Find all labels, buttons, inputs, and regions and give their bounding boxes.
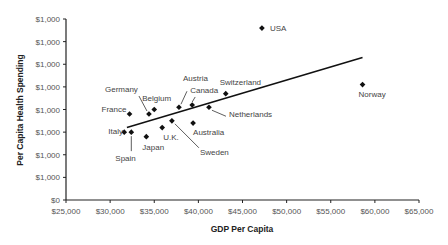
y-tick-label: $1,000	[36, 128, 61, 137]
data-point	[151, 107, 157, 113]
point-label: USA	[270, 24, 287, 33]
x-tick-label: $35,000	[140, 207, 169, 216]
data-point	[127, 111, 133, 117]
x-tick-label: $45,000	[228, 207, 257, 216]
data-point	[206, 104, 212, 110]
point-label: Switzerland	[220, 78, 261, 87]
y-tick-label: $1,000	[36, 38, 61, 47]
y-tick-label: $1,000	[36, 83, 61, 92]
data-point	[159, 125, 165, 131]
point-label: Spain	[115, 154, 135, 163]
y-tick-label: $1,000	[36, 151, 61, 160]
data-point	[143, 134, 149, 140]
data-point	[169, 118, 175, 124]
x-tick-label: $50,000	[272, 207, 301, 216]
x-axis-title: GDP Per Capita	[211, 224, 274, 234]
y-tick-label: $1,000	[36, 106, 61, 115]
y-axis-title: Per Capita Health Spending	[15, 54, 25, 165]
point-label: France	[102, 105, 127, 114]
point-label: Austria	[183, 74, 208, 83]
point-label: Italy	[108, 127, 123, 136]
point-label: Canada	[190, 86, 219, 95]
y-tick-label: $0	[51, 196, 60, 205]
point-label: Norway	[359, 90, 386, 99]
point-label: Germany	[105, 85, 138, 94]
y-axis-ticks: $0$1,000$1,000$1,000$1,000$1,000$1,000$1…	[36, 15, 66, 205]
x-axis-ticks: $25,000$30,000$35,000$40,000$45,000$50,0…	[52, 200, 434, 216]
x-tick-label: $60,000	[360, 207, 389, 216]
x-tick-label: $40,000	[184, 207, 213, 216]
x-tick-label: $25,000	[52, 207, 81, 216]
data-point	[146, 111, 152, 117]
point-label: U.K.	[163, 133, 179, 142]
data-point	[259, 25, 265, 31]
x-tick-label: $55,000	[316, 207, 345, 216]
point-label: Australia	[193, 128, 225, 137]
y-tick-label: $1,000	[36, 173, 61, 182]
data-point	[176, 104, 182, 110]
data-point	[223, 91, 229, 97]
point-label: Netherlands	[229, 110, 272, 119]
point-label: Belgium	[142, 94, 171, 103]
point-label: Japan	[142, 143, 164, 152]
y-tick-label: $1,000	[36, 60, 61, 69]
data-point	[190, 120, 196, 126]
data-point	[128, 129, 134, 135]
scatter-chart: $0$1,000$1,000$1,000$1,000$1,000$1,000$1…	[0, 0, 448, 245]
x-tick-label: $65,000	[405, 207, 434, 216]
y-tick-label: $1,000	[36, 15, 61, 24]
data-point	[360, 82, 366, 88]
x-tick-label: $30,000	[96, 207, 125, 216]
point-label: Sweden	[200, 148, 229, 157]
